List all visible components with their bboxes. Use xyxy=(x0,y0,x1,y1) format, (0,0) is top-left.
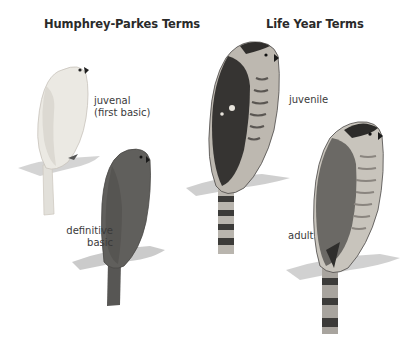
illustration-plate: Humphrey-Parkes Terms Life Year Terms ju… xyxy=(0,0,417,349)
label-adult: adult xyxy=(288,230,314,242)
adult-tail xyxy=(322,266,338,334)
juvenal-tail xyxy=(43,165,54,215)
label-juvenal-line2: (first basic) xyxy=(94,107,150,119)
definitive-eye xyxy=(140,156,143,159)
juvenile-eye xyxy=(264,53,267,56)
juvenile-bird-figure xyxy=(186,42,290,254)
label-juvenal-line1: juvenal xyxy=(94,95,150,107)
juvenile-tail xyxy=(218,188,234,254)
definitive-tail xyxy=(107,262,121,306)
adult-eye xyxy=(368,132,371,135)
label-juvenile: juvenile xyxy=(289,94,328,106)
juvenile-wing-spot xyxy=(220,112,224,116)
label-definitive-line2: basic xyxy=(60,237,113,249)
label-juvenal: juvenal (first basic) xyxy=(94,95,150,119)
heading-life-year: Life Year Terms xyxy=(266,17,364,31)
label-definitive-line1: definitive xyxy=(60,225,113,237)
adult-bird-figure xyxy=(286,122,400,334)
juvenal-eye xyxy=(78,68,81,71)
heading-humphrey-parkes: Humphrey-Parkes Terms xyxy=(44,17,200,31)
bird-illustrations xyxy=(0,0,417,349)
juvenile-wing-spot xyxy=(229,105,235,111)
label-definitive-basic: definitive basic xyxy=(60,225,113,249)
juvenal-bird-figure xyxy=(18,67,100,215)
